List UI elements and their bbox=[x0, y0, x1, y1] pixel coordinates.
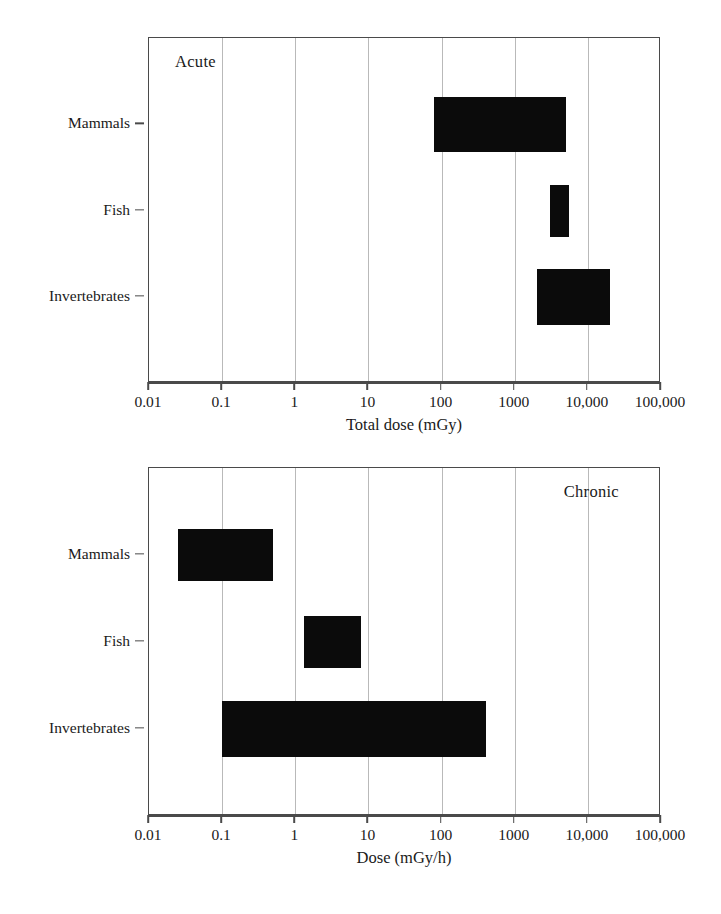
plot-area-chronic: Chronic bbox=[148, 467, 660, 815]
x-tick-label: 0.01 bbox=[134, 826, 161, 844]
x-tick-label: 100,000 bbox=[635, 826, 685, 844]
x-tick-mark bbox=[513, 382, 515, 390]
figure-page: { "chart_data": [ { "id": "acute", "type… bbox=[0, 0, 721, 914]
y-tick-mark bbox=[135, 640, 144, 641]
x-tick-mark bbox=[513, 815, 515, 823]
y-axis-acute: MammalsFishInvertebrates bbox=[0, 37, 144, 382]
x-axis-acute: 0.010.1110100100010,000100,000 bbox=[148, 382, 660, 384]
x-axis-title-acute: Total dose (mGy) bbox=[148, 415, 660, 435]
x-tick-label: 10 bbox=[360, 826, 376, 844]
x-tick-label: 10,000 bbox=[566, 393, 609, 411]
y-tick-label: Fish bbox=[103, 201, 130, 219]
x-tick-label: 1 bbox=[290, 826, 298, 844]
x-tick-mark bbox=[367, 815, 369, 823]
x-tick-mark bbox=[659, 815, 661, 823]
y-tick-mark bbox=[135, 553, 144, 554]
y-tick-mark bbox=[135, 295, 144, 296]
x-tick-label: 1000 bbox=[498, 393, 529, 411]
plot-area-acute: Acute bbox=[148, 37, 660, 382]
y-tick-label: Invertebrates bbox=[49, 287, 130, 305]
chart-chronic: MammalsFishInvertebrates Chronic 0.010.1… bbox=[0, 455, 721, 914]
x-axis-title-chronic: Dose (mGy/h) bbox=[148, 848, 660, 868]
x-tick-mark bbox=[659, 382, 661, 390]
x-tick-label: 100 bbox=[429, 826, 452, 844]
chart-acute: MammalsFishInvertebrates Acute 0.010.111… bbox=[0, 0, 721, 455]
x-tick-label: 10 bbox=[360, 393, 376, 411]
x-tick-mark bbox=[293, 815, 295, 823]
y-tick-label: Invertebrates bbox=[49, 719, 130, 737]
x-tick-mark bbox=[147, 382, 149, 390]
x-tick-mark bbox=[147, 815, 149, 823]
y-tick-label: Mammals bbox=[68, 545, 130, 563]
x-tick-label: 100,000 bbox=[635, 393, 685, 411]
x-tick-mark bbox=[220, 382, 222, 390]
x-tick-label: 0.1 bbox=[211, 826, 230, 844]
y-tick-mark bbox=[135, 727, 144, 728]
panel-label-chronic: Chronic bbox=[564, 482, 619, 502]
y-tick-label: Mammals bbox=[68, 114, 130, 132]
x-tick-label: 0.01 bbox=[134, 393, 161, 411]
x-tick-label: 0.1 bbox=[211, 393, 230, 411]
x-tick-mark bbox=[586, 815, 588, 823]
x-tick-label: 1000 bbox=[498, 826, 529, 844]
x-tick-label: 1 bbox=[290, 393, 298, 411]
x-tick-label: 100 bbox=[429, 393, 452, 411]
y-axis-chronic: MammalsFishInvertebrates bbox=[0, 467, 144, 815]
panel-label-layer-acute: Acute bbox=[149, 38, 659, 381]
panel-label-acute: Acute bbox=[175, 52, 216, 72]
x-tick-label: 10,000 bbox=[566, 826, 609, 844]
x-axis-chronic: 0.010.1110100100010,000100,000 bbox=[148, 815, 660, 817]
x-tick-mark bbox=[586, 382, 588, 390]
x-tick-mark bbox=[440, 815, 442, 823]
x-tick-mark bbox=[220, 815, 222, 823]
y-tick-label: Fish bbox=[103, 632, 130, 650]
y-tick-mark bbox=[135, 123, 144, 124]
x-tick-mark bbox=[293, 382, 295, 390]
x-tick-mark bbox=[367, 382, 369, 390]
panel-label-layer-chronic: Chronic bbox=[149, 468, 659, 814]
y-tick-mark bbox=[135, 209, 144, 210]
x-tick-mark bbox=[440, 382, 442, 390]
